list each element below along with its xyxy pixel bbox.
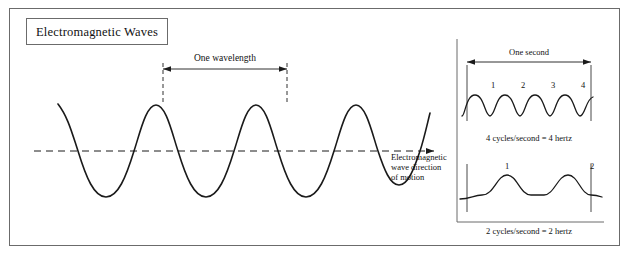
diagram-svg: One wavelength Electromagnetic wave dire…: [10, 9, 621, 247]
two-hertz-cycle-number-2: 2: [590, 161, 594, 171]
four-hertz-cycle-number-2: 2: [521, 80, 525, 90]
figure-frame: Electromagnetic Waves One wavelength Ele…: [9, 8, 620, 246]
four-hertz-cycle-number-4: 4: [581, 80, 586, 90]
one-second-label: One second: [509, 47, 550, 57]
one-second-arrow-right: [583, 59, 591, 65]
direction-label-line2: wave direction: [391, 162, 442, 172]
two-hertz-cycle-number-1: 1: [505, 161, 509, 171]
two-hertz-wave-curve: [460, 175, 602, 199]
one-second-arrow-left: [467, 59, 475, 65]
four-hertz-wave-curve: [462, 95, 593, 116]
four-hertz-cycle-number-3: 3: [551, 80, 555, 90]
four-hertz-label: 4 cycles/second = 4 hertz: [486, 133, 572, 143]
direction-label-line3: of motion: [391, 172, 425, 182]
four-hertz-cycle-number-1: 1: [491, 80, 495, 90]
wavelength-arrow-left: [163, 66, 171, 72]
direction-label-line1: Electromagnetic: [391, 152, 447, 162]
wavelength-arrow-right: [279, 66, 287, 72]
wavelength-label: One wavelength: [194, 53, 256, 63]
two-hertz-label: 2 cycles/second = 2 hertz: [486, 226, 572, 236]
